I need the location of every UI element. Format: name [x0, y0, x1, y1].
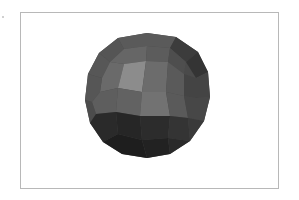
sphere-icon [85, 33, 210, 158]
sphere-figure [0, 0, 299, 200]
